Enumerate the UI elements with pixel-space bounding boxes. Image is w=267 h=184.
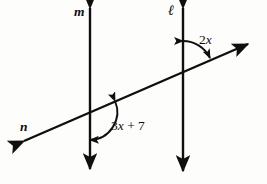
angle-upper-coefficient: 2 [199,32,206,47]
geometry-canvas [0,0,267,184]
line-label-m: m [74,5,85,19]
angle-lower-coefficient: 3 [111,118,118,133]
angle-label-upper: 2x [199,33,212,47]
line-label-n: n [20,120,28,134]
angle-lower-constant: + 7 [124,118,145,133]
angle-upper-variable: x [206,32,212,47]
line-label-l: ℓ [168,3,174,18]
geometry-figure: m ℓ n 2x 3x + 7 [0,0,267,184]
angle-label-lower: 3x + 7 [111,119,145,133]
